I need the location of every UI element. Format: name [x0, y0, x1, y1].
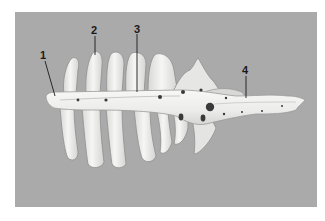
bone-specimen-illustration	[0, 0, 325, 221]
anatomical-figure: 1 2 3 4	[0, 0, 325, 221]
callout-label-2: 2	[91, 25, 97, 36]
leader-line-1	[45, 61, 55, 96]
callout-label-4: 4	[242, 65, 248, 76]
callout-label-3: 3	[134, 24, 140, 35]
callout-label-1: 1	[40, 50, 46, 61]
